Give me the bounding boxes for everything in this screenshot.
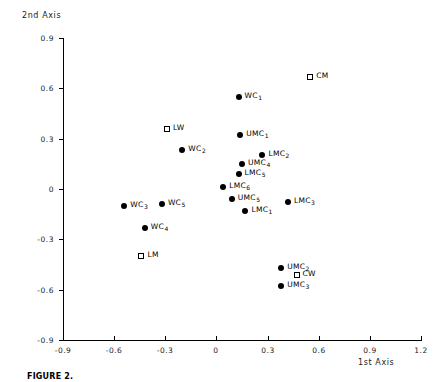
y-tick-label: 0 (22, 185, 54, 194)
y-tick-label: -0.3 (22, 235, 54, 244)
x-tick-mark (114, 336, 115, 341)
y-tick-mark (59, 38, 64, 39)
y-tick-mark (59, 290, 64, 291)
filled-circle-marker-icon (229, 196, 235, 202)
data-point-label: WC1 (245, 91, 262, 100)
data-point-label: UMC4 (248, 158, 270, 167)
x-tick-mark (216, 336, 217, 341)
data-point-label: WC4 (151, 222, 168, 231)
filled-circle-marker-icon (242, 208, 248, 214)
open-square-marker-icon (164, 126, 170, 132)
filled-circle-marker-icon (278, 265, 284, 271)
filled-circle-marker-icon (236, 94, 242, 100)
data-point-label: LMC2 (268, 149, 289, 158)
filled-circle-marker-icon (159, 201, 165, 207)
data-point-label: WC5 (168, 198, 185, 207)
open-square-marker-icon (294, 272, 300, 278)
x-tick-label: 1.2 (401, 346, 439, 355)
data-point-label: LMC6 (229, 181, 250, 190)
data-point-label: LMC5 (245, 168, 266, 177)
filled-circle-marker-icon (142, 225, 148, 231)
x-tick-label: -0.9 (43, 346, 83, 355)
y-tick-label: -0.9 (22, 336, 54, 345)
y-tick-label: -0.6 (22, 286, 54, 295)
x-tick-label: 0.9 (350, 346, 390, 355)
filled-circle-marker-icon (237, 132, 243, 138)
data-point-label: UMC1 (246, 129, 268, 138)
data-point-label: WC3 (130, 200, 147, 209)
open-square-marker-icon (138, 253, 144, 259)
y-axis-title: 2nd Axis (22, 11, 61, 20)
data-point-label: UMC3 (287, 280, 309, 289)
open-square-marker-icon (307, 74, 313, 80)
filled-circle-marker-icon (179, 147, 185, 153)
x-tick-mark (370, 336, 371, 341)
x-axis-line (63, 340, 421, 341)
y-tick-mark (59, 189, 64, 190)
y-tick-mark (59, 139, 64, 140)
scatter-plot-figure: 2nd Axis 1st Axis 0.90.60.30-0.3-0.6-0.9… (0, 0, 439, 382)
x-tick-label: -0.3 (145, 346, 185, 355)
filled-circle-marker-icon (236, 171, 242, 177)
data-point-label: UMC5 (238, 193, 260, 202)
x-tick-label: 0 (196, 346, 236, 355)
y-tick-label: 0.6 (22, 84, 54, 93)
y-tick-mark (59, 239, 64, 240)
data-point-label: LMC1 (251, 205, 272, 214)
data-point-label: CW (303, 269, 316, 278)
filled-circle-marker-icon (121, 203, 127, 209)
x-tick-mark (421, 336, 422, 341)
x-tick-mark (165, 336, 166, 341)
x-axis-title: 1st Axis (358, 358, 394, 367)
filled-circle-marker-icon (220, 184, 226, 190)
data-point-label: LW (173, 123, 185, 132)
filled-circle-marker-icon (239, 161, 245, 167)
x-tick-label: -0.6 (94, 346, 134, 355)
y-tick-mark (59, 88, 64, 89)
x-tick-label: 0.3 (248, 346, 288, 355)
data-point-label: CM (316, 71, 328, 80)
filled-circle-marker-icon (285, 199, 291, 205)
data-point-label: LMC3 (294, 196, 315, 205)
y-tick-label: 0.9 (22, 34, 54, 43)
figure-caption: FIGURE 2. (27, 372, 73, 381)
x-tick-mark (63, 336, 64, 341)
data-point-label: LM (147, 250, 158, 259)
x-tick-label: 0.6 (299, 346, 339, 355)
y-tick-label: 0.3 (22, 135, 54, 144)
x-tick-mark (319, 336, 320, 341)
data-point-label: WC2 (188, 144, 205, 153)
filled-circle-marker-icon (278, 283, 284, 289)
x-tick-mark (268, 336, 269, 341)
